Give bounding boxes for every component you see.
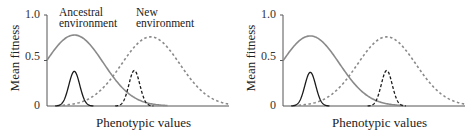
distribution-new xyxy=(368,71,406,106)
distribution-ancestral xyxy=(291,72,329,106)
right-panel: Mean fitness 1.0 0.5 0 Phenotypic values xyxy=(236,0,472,137)
fitness-curve-ancestral xyxy=(47,35,167,106)
fitness-curve-new xyxy=(294,37,465,106)
x-axis-label: Phenotypic values xyxy=(332,115,427,131)
left-panel: Mean fitness 1.0 0.5 0 Ancestral environ… xyxy=(0,0,236,137)
x-axis-label: Phenotypic values xyxy=(96,115,191,131)
distribution-ancestral xyxy=(55,71,93,106)
distribution-new xyxy=(115,71,153,106)
